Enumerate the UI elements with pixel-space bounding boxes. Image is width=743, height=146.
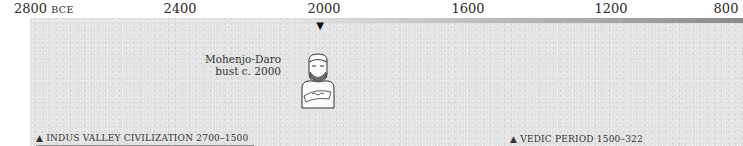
tick-2400: 2400 [163,1,196,16]
tick-1600: 1600 [451,1,484,16]
period-label: INDUS VALLEY CIVILIZATION 2700–1500 [46,133,248,143]
up-triangle-icon: ▲ [510,134,517,144]
timeline-band [30,18,743,146]
tick-800: 800 [714,1,739,16]
tick-2000: 2000 [307,1,340,16]
timeline-ticks: 2800 BCE 2400 2000 1600 1200 800 [0,0,743,18]
period-indus-valley: ▲ INDUS VALLEY CIVILIZATION 2700–1500 [36,131,254,146]
artifact-caption-line2: bust c. 2000 [205,65,281,77]
down-triangle-marker-icon: ▼ [316,21,324,31]
up-triangle-icon: ▲ [36,133,43,143]
period-vedic: ▲ VEDIC PERIOD 1500–322 [510,132,643,146]
era-suffix: BCE [51,4,74,15]
timeline-gradient-strip [30,18,743,23]
tick-1200: 1200 [594,1,627,16]
bust-figure-icon [298,52,338,110]
period-label: VEDIC PERIOD 1500–322 [520,134,643,144]
tick-2800: 2800 BCE [14,1,74,16]
artifact-caption: Mohenjo-Daro bust c. 2000 [205,53,281,77]
artifact-caption-line1: Mohenjo-Daro [205,53,281,65]
